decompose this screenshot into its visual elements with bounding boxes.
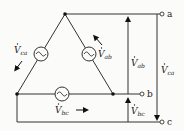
arrow-vca-source-icon (16, 61, 22, 69)
terminal-b-label: b (147, 89, 153, 99)
terminal-a (160, 12, 164, 16)
svg-text:Vbc: Vbc (131, 106, 145, 117)
terminal-a-label: a (167, 9, 173, 19)
svg-text:Vab: Vab (98, 49, 112, 60)
terminal-c-label: c (167, 117, 172, 127)
label-vbc-line: Vbc (131, 104, 145, 117)
terminal-c (160, 120, 164, 124)
label-vab-source: Vab (98, 47, 112, 60)
svg-text:Vca: Vca (161, 65, 175, 76)
delta-circuit-diagram: a b c Vca Vab Vbc Vab Vca Vbc (0, 0, 184, 131)
terminal-b (140, 92, 144, 96)
node-apex (63, 12, 67, 16)
label-vab-line: Vab (131, 56, 145, 69)
label-vca-line: Vca (161, 63, 175, 76)
svg-text:Vbc: Vbc (55, 105, 69, 116)
source-vab (82, 47, 96, 61)
label-vca-source: Vca (14, 43, 28, 56)
source-vca (34, 47, 48, 61)
svg-text:Vca: Vca (14, 45, 28, 56)
node-bottom-left (15, 92, 19, 96)
source-vbc (55, 87, 69, 101)
arrow-vab-source-icon (95, 37, 102, 45)
svg-text:Vab: Vab (131, 58, 145, 69)
circuit-svg: a b c Vca Vab Vbc Vab Vca Vbc (0, 0, 184, 131)
label-vbc-source: Vbc (55, 103, 69, 116)
node-bottom-right (111, 92, 115, 96)
